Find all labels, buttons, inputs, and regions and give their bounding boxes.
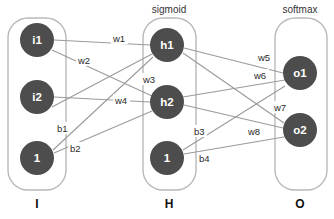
edge-label-w5: w5 [257,52,270,63]
node-label-o2: o2 [293,124,306,136]
edge-w7 [183,80,285,97]
edge-w6 [183,53,284,123]
layer-footer-hidden: H [165,197,174,211]
edge-w2 [52,50,152,96]
activation-label-hidden: sigmoid [152,4,186,15]
diagram-canvas: w1 w2 w3 w4 b1 b2 w5 w6 w7 w8 b3 b4 [0,0,334,219]
edge-label-w4: w4 [114,95,127,106]
edge-w4 [54,97,150,102]
edge-label-b4: b4 [199,153,210,164]
edge-label-w3: w3 [142,74,155,85]
layer-footer-output: O [295,197,304,211]
neural-network-diagram: w1 w2 w3 w4 b1 b2 w5 w6 w7 w8 b3 b4 [0,0,334,219]
nodes-input: i1 i2 1 [20,23,54,175]
edge-label-w6: w6 [253,70,266,81]
node-label-input-bias: 1 [34,152,41,164]
node-label-i1: i1 [32,34,42,46]
edge-label-b1: b1 [57,123,68,134]
nodes-hidden: h1 h2 1 [150,28,184,175]
node-label-h2: h2 [160,96,173,108]
activation-titles: sigmoid softmax [152,4,318,15]
edge-b1 [53,57,153,150]
layer-footer-input: I [35,197,38,211]
edge-label-b3: b3 [194,126,205,137]
edge-label-w1: w1 [112,33,125,44]
edge-label-w7: w7 [273,102,286,113]
edge-b3 [183,86,285,150]
edge-label-b2: b2 [70,143,81,154]
node-label-h1: h1 [160,39,174,51]
node-label-i2: i2 [32,91,42,103]
activation-label-output: softmax [282,4,317,15]
edge-label-w8: w8 [247,126,260,137]
layer-footers: I H O [35,197,304,211]
node-label-o1: o1 [293,67,307,79]
node-label-hidden-bias: 1 [164,152,171,164]
edge-w1 [54,40,150,45]
edge-label-w2: w2 [77,55,90,66]
